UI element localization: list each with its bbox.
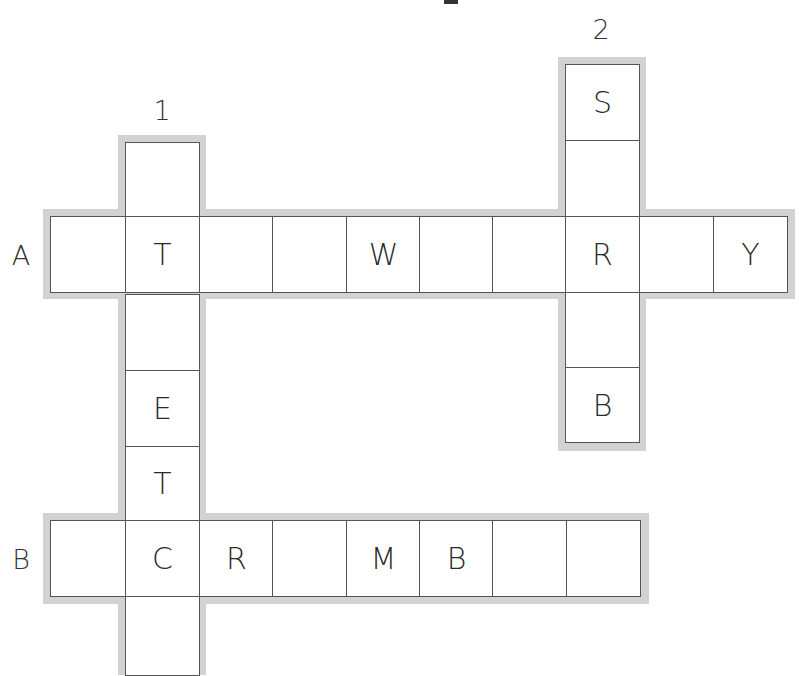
cell-b-7[interactable] — [492, 520, 567, 597]
cell-down1-1[interactable] — [125, 142, 200, 219]
across-label-a: A — [6, 240, 36, 271]
cell-down2-4[interactable] — [565, 291, 640, 368]
cell-a-4[interactable] — [272, 216, 347, 293]
cell-a-3[interactable] — [199, 216, 274, 293]
cell-b-2[interactable]: C — [125, 520, 200, 597]
cell-b-5[interactable]: M — [346, 520, 421, 597]
cell-b-8[interactable] — [566, 520, 641, 597]
cell-a-1[interactable] — [50, 216, 126, 293]
across-label-b: B — [6, 544, 36, 575]
cell-down1-3[interactable] — [125, 294, 200, 371]
cell-down2-2[interactable] — [565, 140, 640, 217]
cell-b-3[interactable]: R — [199, 520, 274, 597]
cell-down1-7[interactable] — [125, 596, 200, 676]
cell-a-6[interactable] — [419, 216, 494, 293]
cell-b-4[interactable] — [272, 520, 347, 597]
cell-a-8[interactable]: R — [565, 216, 640, 293]
cell-a-7[interactable] — [492, 216, 567, 293]
cell-a-9[interactable] — [639, 216, 714, 293]
cell-down2-5[interactable]: B — [565, 367, 640, 443]
cell-a-10[interactable]: Y — [713, 216, 788, 293]
cropped-title-fragment — [444, 0, 458, 4]
cell-down1-5[interactable]: T — [125, 446, 200, 521]
down-clue-number-1: 1 — [142, 95, 182, 126]
cell-a-5[interactable]: W — [346, 216, 421, 293]
cell-a-2[interactable]: T — [125, 216, 200, 293]
cell-down1-4[interactable]: E — [125, 370, 200, 447]
cell-b-6[interactable]: B — [419, 520, 494, 597]
down-clue-number-2: 2 — [581, 14, 621, 45]
cell-down2-1[interactable]: S — [565, 64, 640, 141]
cell-b-1[interactable] — [50, 520, 126, 597]
